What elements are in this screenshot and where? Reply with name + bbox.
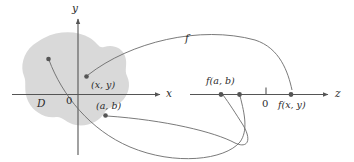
point-ab-label: (a, b)	[96, 101, 121, 111]
function-mapping-figure: y x z D 0 0 (x, y) (a, b) f f(a, b) f(x,…	[0, 0, 354, 162]
value-f-xy-label: f(x, y)	[278, 100, 306, 110]
value-f-ab-dot	[219, 92, 224, 97]
point-xy-label: (x, y)	[91, 80, 115, 90]
z-axis-label: z	[335, 88, 341, 99]
x-axis-label: x	[166, 88, 172, 99]
mapping-arc-ab	[107, 95, 248, 145]
domain-region-label: D	[37, 98, 45, 109]
figure-canvas	[0, 0, 354, 162]
function-label: f	[185, 33, 189, 44]
value-f-ab-label: f(a, b)	[206, 76, 235, 86]
value-f-xy-dot	[289, 92, 294, 97]
point-unlabeled-dot	[46, 57, 51, 62]
y-axis-label: y	[72, 3, 78, 14]
value-f-unlabeled-dot	[237, 92, 242, 97]
point-ab-dot	[103, 113, 108, 118]
domain-origin-label: 0	[66, 96, 72, 106]
point-xy-dot	[84, 74, 89, 79]
z-origin-label: 0	[262, 99, 268, 109]
